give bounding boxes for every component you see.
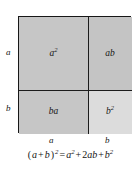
outer-square-frame: a2 ab ba b2 — [18, 16, 131, 133]
edge-label-left-a: a — [6, 48, 11, 57]
edge-label-bottom-a: a — [49, 136, 54, 145]
area-label-ba: ba — [49, 107, 59, 117]
area-label-b-squared: b2 — [106, 107, 114, 117]
equation-lhs-exponent: 2 — [55, 148, 58, 155]
equation-equals-sign: = — [59, 149, 67, 160]
edge-label-left-b: b — [6, 104, 11, 113]
area-cell-ab: ab — [88, 17, 132, 90]
equation-term2-base: ab — [87, 149, 97, 160]
identity-equation: (a+b)2=a2+2ab+b2 — [0, 149, 140, 160]
equation-lhs-b: b — [45, 149, 50, 160]
area-cell-a-squared: a2 — [19, 17, 88, 90]
equation-lhs-plus: + — [37, 149, 45, 160]
area-label-ab: ab — [105, 49, 115, 59]
area-cell-ba: ba — [19, 90, 88, 134]
edge-label-bottom-b: b — [105, 136, 110, 145]
equation-term3-exponent: 2 — [110, 148, 113, 155]
equation-plus-2: + — [97, 149, 105, 160]
vertical-divider-line — [88, 17, 89, 134]
area-cell-b-squared: b2 — [88, 90, 132, 134]
area-label-a-squared: a2 — [49, 49, 57, 59]
horizontal-divider-line — [19, 90, 132, 91]
binomial-square-figure: a2 ab ba b2 a b a b (a+b)2=a2+2ab+b2 — [0, 0, 140, 169]
